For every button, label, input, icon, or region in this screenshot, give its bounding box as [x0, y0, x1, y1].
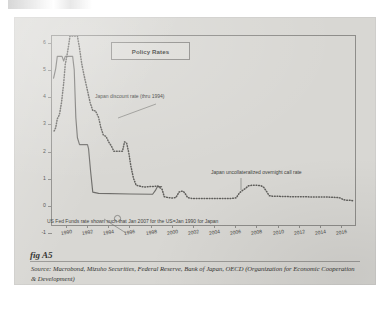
x-tick: [320, 225, 321, 228]
legend-title: Policy Rates: [132, 48, 169, 55]
scan-artifact: [8, 0, 128, 9]
annotation-japan-discount-rate: Japan discount rate (thru 1994): [95, 94, 165, 100]
series-line-0: [54, 56, 162, 194]
x-tick: [66, 225, 67, 228]
x-tick-label: 2014: [315, 229, 327, 236]
y-tick: [48, 152, 52, 153]
y-tick-label: 4: [43, 95, 46, 100]
annotation-us-fed-funds: US Fed Funds rate shown such that Jan 20…: [47, 219, 218, 225]
x-tick-label: 1994: [103, 229, 115, 236]
figure-panel: 6543210-1 199019921994199619982000200220…: [14, 17, 376, 285]
x-tick-label: 1992: [82, 229, 94, 236]
x-tick-label: 1998: [145, 229, 157, 236]
x-tick: [299, 225, 300, 228]
y-tick-label: 3: [43, 122, 46, 127]
plot-inner: [52, 36, 355, 225]
figure-label: fig A5: [30, 250, 52, 260]
chart-series-layer: [52, 36, 355, 225]
x-tick-label: 1996: [124, 229, 136, 236]
x-tick-label: 2012: [293, 229, 305, 236]
y-tick: [48, 70, 52, 71]
x-tick: [172, 225, 173, 228]
y-tick-label: -1: [41, 230, 46, 235]
x-tick-label: 2002: [187, 229, 199, 236]
x-tick-label: 2016: [336, 229, 348, 236]
y-tick-label: 2: [43, 149, 46, 154]
y-tick: [48, 179, 52, 180]
y-tick-label: 6: [43, 40, 46, 45]
series-line-1: [54, 36, 353, 201]
y-tick-label: 5: [43, 68, 46, 73]
x-tick-label: 1990: [60, 229, 72, 236]
x-tick: [193, 225, 194, 228]
x-tick-label: 2004: [209, 229, 221, 236]
x-tick: [278, 225, 279, 228]
plot-area: 6543210-1: [51, 35, 356, 225]
y-tick-label: 0: [43, 203, 46, 208]
y-tick: [48, 43, 52, 44]
x-tick: [256, 225, 257, 228]
x-tick-label: 2000: [166, 229, 178, 236]
y-tick: [48, 206, 52, 207]
x-tick-label: 2008: [251, 229, 263, 236]
x-tick: [214, 225, 215, 228]
x-tick-label: 2006: [230, 229, 242, 236]
figure-source: Source: Macrobond, Mizuho Securities, Fe…: [31, 264, 357, 283]
x-axis-line: 1990199219941996199820002002200420062008…: [51, 225, 356, 226]
x-tick: [108, 225, 109, 228]
y-tick-label: 1: [43, 176, 46, 181]
x-tick: [235, 225, 236, 228]
x-tick: [341, 225, 342, 228]
annotation-overnight-call-rate: Japan uncollateralized overnight call ra…: [211, 170, 302, 176]
caption-divider: [30, 261, 360, 262]
x-tick-label: 2010: [272, 229, 284, 236]
legend-box: Policy Rates: [111, 42, 190, 60]
y-tick: [48, 97, 52, 98]
x-tick: [151, 225, 152, 228]
x-tick: [87, 225, 88, 228]
y-tick: [48, 233, 52, 234]
source-text: Macrobond, Mizuho Securities, Federal Re…: [31, 265, 355, 282]
source-prefix: Source:: [31, 265, 51, 272]
policy-rates-chart: 6543210-1 199019921994199619982000200220…: [25, 28, 363, 244]
scanned-page: 6543210-1 199019921994199619982000200220…: [0, 0, 389, 314]
x-tick: [129, 225, 130, 228]
y-tick: [48, 124, 52, 125]
